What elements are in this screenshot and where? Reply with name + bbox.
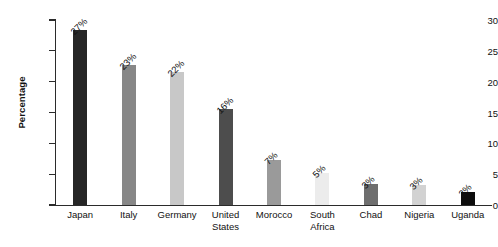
x-axis-category-label: Italy [104,209,152,221]
x-axis-label-line1: Uganda [451,209,484,220]
bar-column[interactable] [461,0,475,205]
x-axis-label-line1: Japan [67,209,93,220]
x-axis-category-label: Japan [56,209,104,221]
bar[interactable] [122,65,136,205]
x-axis-category-label: Morocco [250,209,298,221]
bar-chart: Percentage 051015202530 27%23%22%16%7%5%… [0,0,498,247]
x-axis-category-label: Uganda [444,209,492,221]
x-axis-label-line2: Africa [298,221,346,233]
x-axis-label-line1: Morocco [256,209,292,220]
bar-column[interactable] [412,0,426,205]
bar[interactable] [219,109,233,205]
bars-layer: 27%23%22%16%7%5%3%3%2% [0,0,498,205]
x-axis-label-line1: Chad [360,209,383,220]
bar[interactable] [73,30,87,205]
x-axis-category-label: Chad [347,209,395,221]
x-axis-label-line1: Nigeria [404,209,434,220]
x-axis-category-label: UnitedStates [201,209,249,232]
bar[interactable] [170,72,184,205]
bar-column[interactable] [170,0,184,205]
x-axis-category-label: Nigeria [395,209,443,221]
x-axis-labels: JapanItalyGermanyUnitedStatesMoroccoSout… [0,209,498,247]
bar-column[interactable] [122,0,136,205]
bar-column[interactable] [267,0,281,205]
x-axis-category-label: Germany [153,209,201,221]
x-axis-category-label: SouthAfrica [298,209,346,232]
x-axis-label-line1: United [212,209,239,220]
x-axis-label-line1: South [310,209,335,220]
x-axis-label-line2: States [201,221,249,233]
x-axis-label-line1: Germany [158,209,197,220]
x-axis-label-line1: Italy [120,209,137,220]
